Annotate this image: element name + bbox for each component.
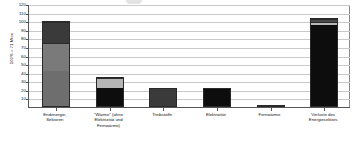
- plot-area: [28, 5, 350, 108]
- y-tick-mark: [26, 91, 29, 92]
- bar-4: [203, 88, 231, 107]
- x-axis-tick-labels: Endenergie, Sektoren"Wärme" (ohne Elektr…: [28, 112, 350, 142]
- gridline: [29, 65, 350, 66]
- gridline: [29, 48, 350, 49]
- gridline: [29, 5, 350, 6]
- x-axis-category-label: "Wärme" (ohne Elektrizität und Fernwärme…: [82, 112, 136, 128]
- y-tick-mark: [26, 48, 29, 49]
- bar-segment: [43, 71, 69, 106]
- bar-2: [96, 77, 124, 107]
- gridline: [29, 22, 350, 23]
- y-tick-mark: [26, 31, 29, 32]
- x-tick-mark: [271, 108, 272, 111]
- y-tick-mark: [26, 22, 29, 23]
- gridline: [29, 99, 350, 100]
- x-tick-mark: [217, 108, 218, 111]
- gridline: [29, 14, 350, 15]
- bar-segment: [43, 43, 69, 71]
- y-tick-label: 120: [19, 3, 26, 7]
- y-tick-mark: [26, 65, 29, 66]
- x-tick-mark: [56, 108, 57, 111]
- x-axis-category-label: Endenergie, Sektoren: [28, 112, 82, 123]
- y-tick-label: 100: [19, 20, 26, 24]
- gridline: [29, 82, 350, 83]
- x-axis-category-label: Fernwärme: [243, 112, 297, 117]
- x-axis-category-label: Treibstoffe: [135, 112, 189, 117]
- y-tick-mark: [26, 99, 29, 100]
- bar-6: [310, 18, 338, 107]
- gridline: [29, 74, 350, 75]
- x-tick-mark: [163, 108, 164, 111]
- y-tick-mark: [26, 57, 29, 58]
- energy-balance-bar-chart: 100% = 71 Mtoe 1201101009080706050403020…: [0, 0, 356, 144]
- x-axis-category-label: Verluste des Energiesektors: [296, 112, 350, 123]
- bar-5: [257, 105, 285, 107]
- bar-segment: [150, 89, 176, 106]
- y-tick-mark: [26, 5, 29, 6]
- gridline: [29, 57, 350, 58]
- y-tick-label: 110: [19, 11, 26, 15]
- gridline: [29, 91, 350, 92]
- bar-segment: [43, 22, 69, 43]
- y-tick-mark: [26, 82, 29, 83]
- bar-segment: [97, 88, 123, 106]
- x-axis-category-label: Elektrizität: [189, 112, 243, 117]
- y-axis-tick-labels: 120110100908070605040302010: [12, 4, 26, 108]
- gridline: [29, 31, 350, 32]
- y-tick-mark: [26, 74, 29, 75]
- bar-segment: [204, 89, 230, 106]
- y-tick-mark: [26, 39, 29, 40]
- x-tick-mark: [324, 108, 325, 111]
- bar-1: [42, 21, 70, 107]
- bar-segment: [97, 78, 123, 88]
- bar-3: [149, 88, 177, 107]
- x-tick-mark: [110, 108, 111, 111]
- gridline: [29, 39, 350, 40]
- y-tick-mark: [26, 14, 29, 15]
- bar-segment: [311, 25, 337, 106]
